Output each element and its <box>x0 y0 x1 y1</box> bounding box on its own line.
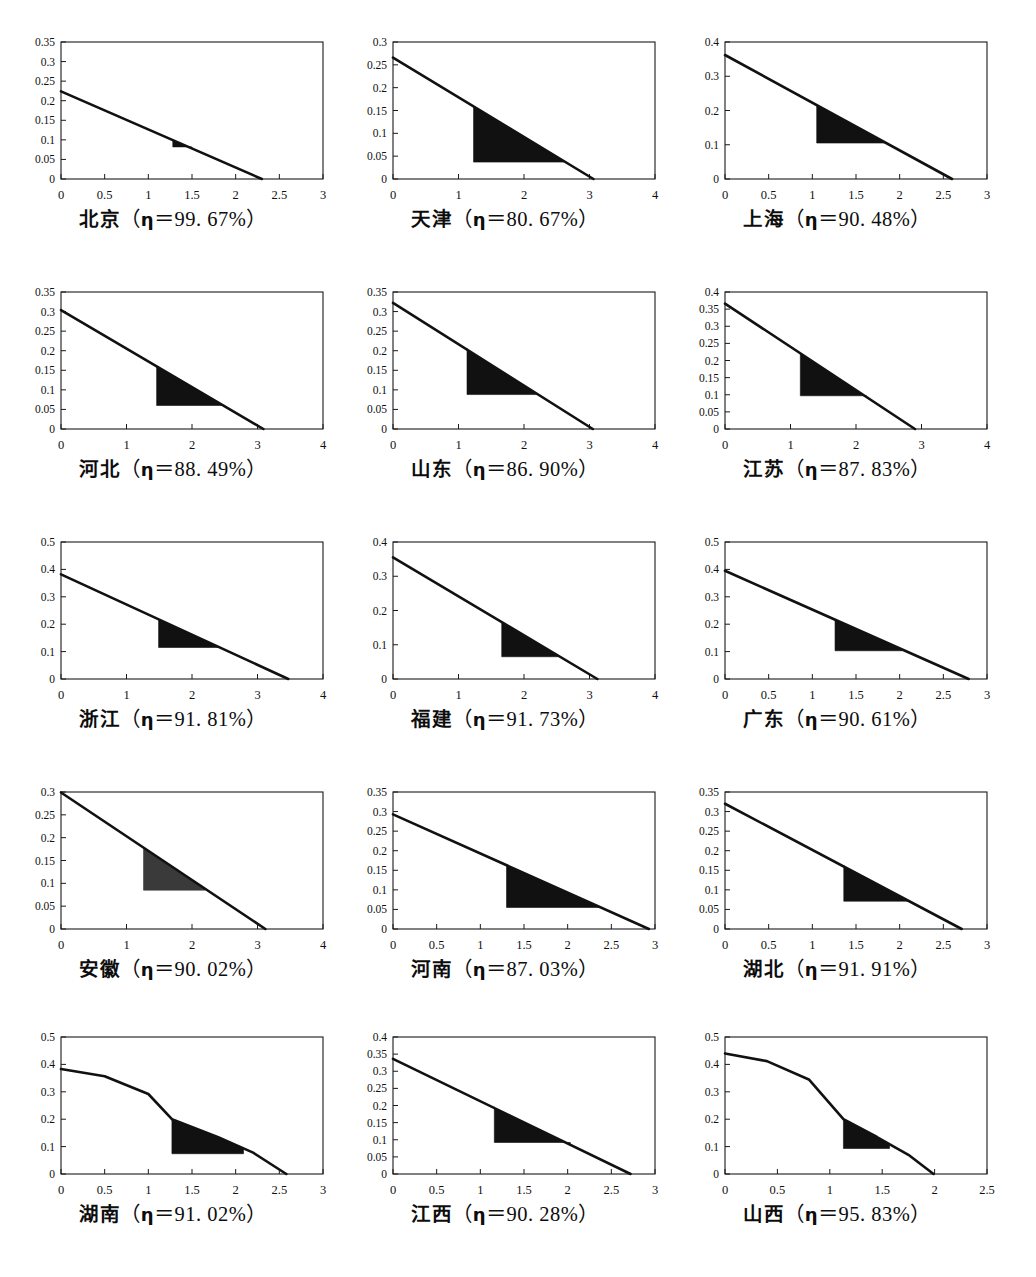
x-tick-label: 0 <box>722 938 728 952</box>
caption-region-name: 湖北 <box>743 958 784 981</box>
y-tick-label: 0.3 <box>41 1086 56 1098</box>
panel-caption: 江苏（η＝87. 83%） <box>678 452 996 482</box>
x-tick-label: 3 <box>586 188 592 202</box>
caption-eta-value: 86. 90% <box>507 458 579 480</box>
x-tick-label: 3 <box>320 1183 326 1197</box>
x-tick-label: 2 <box>521 688 527 702</box>
y-tick-label: 0.2 <box>705 355 720 367</box>
y-tick-label: 0.35 <box>367 286 387 298</box>
x-tick-label: 3 <box>984 188 990 202</box>
x-tick-label: 3 <box>320 188 326 202</box>
caption-eta-value: 90. 61% <box>839 708 911 730</box>
y-tick-label: 0.3 <box>705 320 720 332</box>
x-tick-label: 2.5 <box>936 188 952 202</box>
x-tick-label: 4 <box>320 688 327 702</box>
eta-symbol-icon: η <box>805 459 818 480</box>
y-tick-label: 0 <box>381 1168 387 1180</box>
x-tick-label: 3 <box>652 1183 658 1197</box>
x-tick-label: 0 <box>390 188 396 202</box>
eta-symbol-icon: η <box>141 709 154 730</box>
chart-panel: 00.050.10.150.20.250.301234天津（η＝80. 67%） <box>346 24 678 274</box>
y-tick-label: 0.05 <box>35 403 55 415</box>
caption-eta-value: 90. 28% <box>507 1203 579 1225</box>
demand-curve <box>725 55 952 179</box>
x-tick-label: 0 <box>58 438 64 452</box>
y-tick-label: 0 <box>713 923 719 935</box>
caption-close-paren: ） <box>578 1203 599 1225</box>
caption-region-name: 江西 <box>411 1203 452 1226</box>
y-tick-label: 0.25 <box>367 59 387 71</box>
y-tick-label: 0.15 <box>699 372 719 384</box>
panel-caption: 河北（η＝88. 49%） <box>14 452 332 482</box>
x-tick-label: 0 <box>390 688 396 702</box>
chart-panel: 00.10.20.30.40.500.511.522.53湖南（η＝91. 02… <box>14 1019 346 1264</box>
x-tick-label: 3 <box>984 688 990 702</box>
x-tick-label: 0 <box>58 1183 64 1197</box>
plot-frame <box>61 42 323 179</box>
y-tick-label: 0.3 <box>373 570 388 582</box>
x-tick-label: 1.5 <box>184 1183 200 1197</box>
x-tick-label: 0 <box>390 938 396 952</box>
x-tick-label: 0 <box>722 438 728 452</box>
y-tick-label: 0.2 <box>705 618 720 630</box>
caption-close-paren: ） <box>578 708 599 730</box>
y-tick-label: 0.5 <box>705 1031 720 1043</box>
caption-equals: ＝ <box>154 958 175 980</box>
demand-curve <box>393 303 593 429</box>
chart-panel: 00.050.10.150.20.250.301234安徽（η＝90. 02%） <box>14 774 346 1019</box>
y-tick-label: 0.05 <box>699 903 719 915</box>
y-tick-label: 0.1 <box>373 1134 388 1146</box>
plot-frame <box>725 1037 987 1174</box>
y-tick-label: 0.5 <box>41 536 56 548</box>
demand-curve <box>393 1059 631 1174</box>
x-tick-label: 1 <box>123 938 129 952</box>
panel-caption: 山东（η＝86. 90%） <box>346 452 664 482</box>
y-tick-label: 0.4 <box>41 1058 56 1070</box>
panel-caption: 广东（η＝90. 61%） <box>678 702 996 732</box>
demand-curve <box>725 571 969 679</box>
y-tick-label: 0.2 <box>41 618 56 630</box>
y-tick-label: 0.25 <box>35 809 55 821</box>
y-tick-label: 0.1 <box>41 877 56 889</box>
chart-plot: 00.050.10.150.20.250.30.350.400.511.522.… <box>346 1019 664 1219</box>
caption-equals: ＝ <box>818 208 839 230</box>
eta-symbol-icon: η <box>141 459 154 480</box>
y-tick-label: 0.05 <box>367 903 387 915</box>
x-tick-label: 2 <box>897 938 903 952</box>
y-tick-label: 0.35 <box>35 36 55 48</box>
caption-close-paren: ） <box>910 458 931 480</box>
y-tick-label: 0.15 <box>367 105 387 117</box>
chart-plot: 00.050.10.150.20.250.30.3500.511.522.53 <box>14 24 332 224</box>
chart-panel: 00.10.20.30.40.500.511.522.53广东（η＝90. 61… <box>678 524 1020 774</box>
caption-eta-value: 99. 67% <box>175 208 247 230</box>
x-tick-label: 1 <box>455 188 461 202</box>
eta-symbol-icon: η <box>473 1204 486 1225</box>
caption-open-paren: （ <box>120 208 141 230</box>
y-tick-label: 0.15 <box>367 864 387 876</box>
y-tick-label: 0.1 <box>373 384 388 396</box>
chart-plot: 00.10.20.30.40.500.511.522.53 <box>678 524 996 724</box>
y-tick-label: 0.15 <box>35 855 55 867</box>
x-tick-label: 1 <box>809 688 815 702</box>
plot-frame <box>393 792 655 929</box>
eta-symbol-icon: η <box>805 209 818 230</box>
y-tick-label: 0.1 <box>41 134 56 146</box>
caption-close-paren: ） <box>246 708 267 730</box>
x-tick-label: 0.5 <box>97 188 113 202</box>
demand-curve <box>61 574 288 679</box>
y-tick-label: 0.2 <box>373 82 388 94</box>
y-tick-label: 0.3 <box>705 70 720 82</box>
x-tick-label: 0 <box>390 1183 396 1197</box>
plot-frame <box>393 542 655 679</box>
x-tick-label: 2 <box>233 188 239 202</box>
y-tick-label: 0 <box>713 673 719 685</box>
eta-symbol-icon: η <box>805 959 818 980</box>
y-tick-label: 0.4 <box>373 1031 388 1043</box>
caption-equals: ＝ <box>818 708 839 730</box>
panel-caption: 北京（η＝99. 67%） <box>14 202 332 232</box>
x-tick-label: 1.5 <box>874 1183 890 1197</box>
x-tick-label: 4 <box>652 438 659 452</box>
plot-frame <box>725 292 987 429</box>
caption-region-name: 河南 <box>411 958 452 981</box>
y-tick-label: 0.35 <box>35 286 55 298</box>
